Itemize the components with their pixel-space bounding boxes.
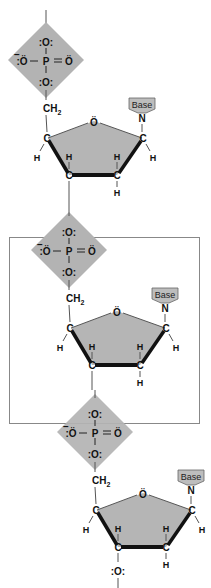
oxygen-bottom: :O: <box>88 449 102 460</box>
sugar-ring: Ö C C C C H H H H H <box>34 116 157 198</box>
sugar-pentagon <box>97 493 191 547</box>
carbon-4: C <box>66 323 73 334</box>
oxygen-right: Ö <box>65 55 73 67</box>
svg-text:H: H <box>114 152 121 162</box>
phosphate-group: :O: P :Ö − Ö :O: <box>8 22 84 98</box>
carbon-4: C <box>92 505 99 516</box>
ring-oxygen: Ö <box>90 116 98 128</box>
sugar-pentagon <box>71 311 165 365</box>
phosphorus: P <box>66 246 73 257</box>
ring-oxygen: Ö <box>139 488 147 500</box>
nucleotide-unit-1: :O: P :Ö − Ö :O: CH2 Ö C C C C H H H <box>8 22 156 200</box>
carbon-2: C <box>113 170 120 181</box>
base-group: Base N <box>178 470 204 504</box>
base-group: Base N <box>152 288 178 322</box>
svg-text:H: H <box>83 525 90 535</box>
ch2-group: CH2 <box>43 103 61 116</box>
nucleic-acid-diagram: :O: P :Ö − Ö :O: CH2 Ö C C C C H H H <box>0 0 211 588</box>
oxygen-right: Ö <box>88 245 96 257</box>
oxygen-right: Ö <box>114 427 122 439</box>
svg-text:H: H <box>114 188 121 198</box>
ch2-group: CH2 <box>66 293 84 306</box>
phosphorus: P <box>43 56 50 67</box>
oxygen-bottom: :O: <box>62 267 76 278</box>
base-group: Base N <box>129 98 155 132</box>
carbon-3: C <box>65 170 72 181</box>
carbon-3: C <box>114 542 121 553</box>
ch2-group: CH2 <box>92 475 110 488</box>
svg-text:H: H <box>163 560 170 570</box>
nucleotide-unit-3: :O: P :Ö − Ö :O: CH2 Ö C C C C H H H <box>57 390 205 588</box>
carbon-4: C <box>43 133 50 144</box>
carbon-3: C <box>88 360 95 371</box>
svg-text:H: H <box>137 378 144 388</box>
negative-charge: − <box>14 49 20 60</box>
svg-text:H: H <box>173 343 180 353</box>
nitrogen: N <box>138 113 145 124</box>
svg-text:H: H <box>150 153 157 163</box>
negative-charge: − <box>63 421 69 432</box>
carbon-2: C <box>136 360 143 371</box>
oxygen-top: :O: <box>88 409 102 420</box>
sugar-ring: Ö C C C C H H H H H <box>83 488 206 570</box>
svg-text:H: H <box>115 524 122 534</box>
svg-text:H: H <box>137 342 144 352</box>
base-label: Base <box>181 472 202 482</box>
carbon-1: C <box>188 505 195 516</box>
svg-text:H: H <box>89 342 96 352</box>
phosphate-group: :O: P :Ö − Ö :O: <box>57 390 133 470</box>
svg-text:H: H <box>57 343 64 353</box>
phosphorus: P <box>92 428 99 439</box>
svg-text:H: H <box>66 152 73 162</box>
carbon-1: C <box>139 133 146 144</box>
svg-text:H: H <box>34 153 41 163</box>
phosphate-group: :O: P :Ö − Ö :O: <box>31 200 107 288</box>
oxygen-top: :O: <box>39 37 53 48</box>
svg-text:H: H <box>199 525 206 535</box>
sugar-pentagon <box>48 121 142 175</box>
nitrogen: N <box>187 485 194 496</box>
svg-text:H: H <box>163 524 170 534</box>
terminal-oxygen: :O: <box>111 566 125 577</box>
negative-charge: − <box>37 239 43 250</box>
oxygen-bottom: :O: <box>39 77 53 88</box>
base-label: Base <box>132 100 153 110</box>
carbon-1: C <box>162 323 169 334</box>
nucleotide-unit-2: :O: P :Ö − Ö :O: CH2 Ö C C C C H H H <box>31 200 179 390</box>
oxygen-top: :O: <box>62 227 76 238</box>
ring-oxygen: Ö <box>113 306 121 318</box>
nitrogen: N <box>161 303 168 314</box>
base-label: Base <box>155 290 176 300</box>
sugar-ring: Ö C C C C H H H H H <box>57 306 180 388</box>
carbon-2: C <box>162 542 169 553</box>
